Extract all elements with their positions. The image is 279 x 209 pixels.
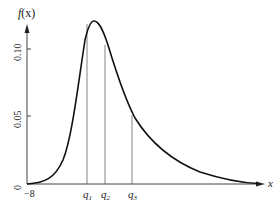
y-tick-label-0: 0 — [12, 185, 23, 190]
x-start-label: −8 — [24, 189, 35, 199]
y-axis-arrow-icon — [25, 24, 30, 33]
y-tick-label-010: 0.10 — [12, 44, 23, 62]
density-plot — [0, 0, 279, 209]
density-curve — [27, 21, 258, 184]
y-tick-label-005: 0.05 — [12, 111, 23, 129]
y-axis-label: f(x) — [18, 7, 35, 19]
q3-label: q3 — [128, 189, 137, 202]
x-axis-label: x — [268, 178, 273, 189]
q1-label: q1 — [83, 189, 92, 202]
q2-label: q2 — [101, 189, 110, 202]
